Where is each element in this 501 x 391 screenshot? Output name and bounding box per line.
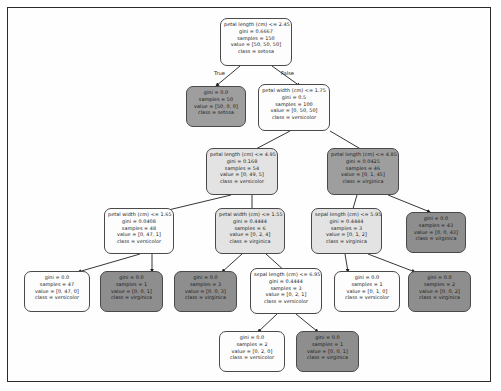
node-value: value = [0, 1, 2] (315, 231, 378, 238)
node-samples: samples = 47 (28, 281, 86, 288)
node-value: value = [0, 2, 0] (223, 348, 281, 355)
decision-tree-figure: True False petal length (cm) <= 2.45 gin… (0, 0, 501, 391)
node-gini: gini = 0.0 (338, 274, 396, 281)
node-value: value = [50, 0, 0] (190, 103, 242, 110)
node-class: class = virginica (178, 294, 233, 301)
node-samples: samples = 50 (190, 96, 242, 103)
node-value: value = [0, 2, 1] (254, 291, 318, 298)
node-class: class = setosa (224, 48, 288, 55)
node-class: class = virginica (412, 294, 467, 301)
node-samples: samples = 43 (410, 222, 462, 229)
node-samples: samples = 2 (223, 341, 281, 348)
tree-node-n10[interactable]: gini = 0.0 samples = 1 value = [0, 0, 1]… (100, 271, 163, 312)
node-class: class = virginica (315, 238, 378, 245)
node-condition: petal width (cm) <= 1.75 (262, 87, 326, 94)
tree-node-n7[interactable]: sepal length (cm) <= 5.95 gini = 0.4444 … (311, 208, 382, 254)
node-condition: petal width (cm) <= 1.55 (219, 211, 281, 218)
node-class: class = virginica (410, 235, 462, 242)
node-class: class = versicolor (210, 178, 274, 185)
node-samples: samples = 3 (178, 281, 233, 288)
node-class: class = versicolor (108, 238, 170, 245)
node-class: class = versicolor (28, 294, 86, 301)
node-class: class = versicolor (254, 298, 318, 305)
node-value: value = [0, 0, 2] (412, 288, 467, 295)
tree-node-n16[interactable]: gini = 0.0 samples = 1 value = [0, 0, 1]… (296, 331, 359, 372)
node-samples: samples = 3 (315, 225, 378, 232)
tree-node-n2[interactable]: petal width (cm) <= 1.75 gini = 0.5 samp… (258, 84, 330, 131)
node-samples: samples = 1 (338, 281, 396, 288)
node-samples: samples = 150 (224, 35, 288, 42)
node-value: value = [0, 47, 1] (108, 231, 170, 238)
node-samples: samples = 6 (219, 225, 281, 232)
tree-node-n11[interactable]: gini = 0.0 samples = 3 value = [0, 0, 3]… (174, 271, 237, 312)
node-class: class = virginica (331, 178, 395, 185)
tree-node-n3[interactable]: petal length (cm) <= 4.95 gini = 0.168 s… (206, 148, 278, 195)
node-gini: gini = 0.168 (210, 158, 274, 165)
node-condition: petal length (cm) <= 2.45 (224, 21, 288, 28)
node-gini: gini = 0.4444 (254, 278, 318, 285)
node-class: class = setosa (190, 109, 242, 116)
tree-node-n8[interactable]: gini = 0.0 samples = 43 value = [0, 0, 4… (406, 212, 466, 253)
edge-label-true: True (214, 70, 225, 76)
node-samples: samples = 48 (108, 225, 170, 232)
node-value: value = [0, 1, 0] (338, 288, 396, 295)
node-gini: gini = 0.0425 (331, 158, 395, 165)
node-class: class = virginica (300, 354, 355, 361)
node-value: value = [0, 1, 45] (331, 171, 395, 178)
node-gini: gini = 0.0 (412, 274, 467, 281)
node-gini: gini = 0.0 (104, 274, 159, 281)
node-gini: gini = 0.0408 (108, 218, 170, 225)
node-gini: gini = 0.0 (300, 334, 355, 341)
node-value: value = [0, 49, 5] (210, 171, 274, 178)
node-value: value = [0, 0, 43] (410, 229, 462, 236)
tree-node-n15[interactable]: gini = 0.0 samples = 2 value = [0, 2, 0]… (219, 331, 285, 372)
node-class: class = versicolor (338, 294, 396, 301)
node-gini: gini = 0.0 (190, 89, 242, 96)
tree-node-n12[interactable]: sepal length (cm) <= 6.95 gini = 0.4444 … (250, 268, 322, 314)
node-gini: gini = 0.0 (223, 334, 281, 341)
tree-node-n9[interactable]: gini = 0.0 samples = 47 value = [0, 47, … (24, 271, 90, 312)
node-samples: samples = 54 (210, 165, 274, 172)
node-samples: samples = 3 (254, 285, 318, 292)
node-class: class = versicolor (223, 354, 281, 361)
node-value: value = [0, 0, 3] (178, 288, 233, 295)
tree-node-n4[interactable]: petal length (cm) <= 4.85 gini = 0.0425 … (327, 148, 399, 195)
node-gini: gini = 0.4444 (219, 218, 281, 225)
node-samples: samples = 100 (262, 101, 326, 108)
tree-node-n0[interactable]: petal length (cm) <= 2.45 gini = 0.6667 … (220, 18, 292, 66)
node-gini: gini = 0.0 (178, 274, 233, 281)
node-samples: samples = 46 (331, 165, 395, 172)
node-gini: gini = 0.4444 (315, 218, 378, 225)
node-samples: samples = 1 (300, 341, 355, 348)
node-value: value = [0, 0, 1] (300, 348, 355, 355)
node-value: value = [0, 50, 50] (262, 107, 326, 114)
tree-node-n5[interactable]: petal width (cm) <= 1.65 gini = 0.0408 s… (104, 208, 174, 254)
tree-node-n14[interactable]: gini = 0.0 samples = 2 value = [0, 0, 2]… (408, 271, 471, 312)
node-gini: gini = 0.0 (410, 215, 462, 222)
node-samples: samples = 2 (412, 281, 467, 288)
edge-label-false: False (281, 70, 294, 76)
node-condition: petal length (cm) <= 4.95 (210, 151, 274, 158)
tree-node-n1[interactable]: gini = 0.0 samples = 50 value = [50, 0, … (186, 86, 246, 127)
tree-node-n6[interactable]: petal width (cm) <= 1.55 gini = 0.4444 s… (215, 208, 285, 254)
node-condition: petal width (cm) <= 1.65 (108, 211, 170, 218)
node-value: value = [50, 50, 50] (224, 41, 288, 48)
node-gini: gini = 0.6667 (224, 28, 288, 35)
tree-node-n13[interactable]: gini = 0.0 samples = 1 value = [0, 1, 0]… (334, 271, 400, 312)
node-condition: sepal length (cm) <= 5.95 (315, 211, 378, 218)
node-condition: petal length (cm) <= 4.85 (331, 151, 395, 158)
node-value: value = [0, 47, 0] (28, 288, 86, 295)
node-class: class = versicolor (262, 114, 326, 121)
node-gini: gini = 0.5 (262, 94, 326, 101)
node-value: value = [0, 2, 4] (219, 231, 281, 238)
node-condition: sepal length (cm) <= 6.95 (254, 271, 318, 278)
node-gini: gini = 0.0 (28, 274, 86, 281)
node-class: class = virginica (219, 238, 281, 245)
node-samples: samples = 1 (104, 281, 159, 288)
node-value: value = [0, 0, 1] (104, 288, 159, 295)
node-class: class = virginica (104, 294, 159, 301)
